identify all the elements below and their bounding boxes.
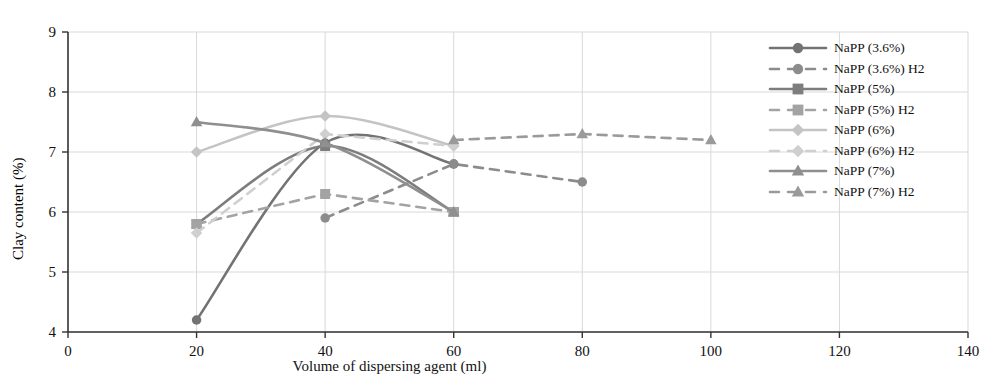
legend-swatch-napp-7 bbox=[768, 162, 828, 180]
x-axis-title-wrap: Volume of dispersing agent (ml) bbox=[0, 358, 999, 375]
y-tick-label: 6 bbox=[49, 204, 57, 220]
chart-figure: 456789020406080100120140 Clay content (%… bbox=[0, 0, 999, 390]
legend-label: NaPP (7%) bbox=[828, 163, 895, 179]
legend-swatch-napp-6-h2 bbox=[768, 142, 828, 160]
legend-swatch-napp-5-h2 bbox=[768, 101, 828, 119]
chart-legend: NaPP (3.6%) NaPP (3.6%) H2 NaPP (5%) NaP… bbox=[768, 38, 996, 202]
legend-item[interactable]: NaPP (3.6%) H2 bbox=[768, 59, 996, 80]
legend-label: NaPP (3.6%) bbox=[828, 40, 905, 56]
legend-item[interactable]: NaPP (3.6%) bbox=[768, 38, 996, 59]
data-point-circle bbox=[320, 213, 330, 223]
legend-item[interactable]: NaPP (6%) H2 bbox=[768, 141, 996, 162]
data-point-square bbox=[320, 189, 330, 199]
x-axis-title: Volume of dispersing agent (ml) bbox=[293, 358, 487, 375]
y-tick-label: 8 bbox=[49, 84, 57, 100]
x-tick-label: 100 bbox=[700, 343, 723, 359]
y-axis-title: Clay content (%) bbox=[10, 158, 27, 260]
legend-swatch-napp-7-h2 bbox=[768, 183, 828, 201]
legend-label: NaPP (3.6%) H2 bbox=[828, 61, 925, 77]
data-point-square bbox=[793, 84, 804, 95]
data-point-triangle bbox=[705, 134, 717, 144]
y-tick-label: 5 bbox=[49, 264, 57, 280]
x-tick-label: 20 bbox=[189, 343, 204, 359]
x-tick-label: 40 bbox=[318, 343, 333, 359]
legend-swatch-napp-3-6-h2 bbox=[768, 60, 828, 78]
legend-label: NaPP (6%) bbox=[828, 122, 895, 138]
legend-item[interactable]: NaPP (7%) H2 bbox=[768, 182, 996, 203]
data-point-circle bbox=[192, 315, 202, 325]
data-point-diamond bbox=[792, 124, 804, 136]
legend-swatch-napp-3-6 bbox=[768, 39, 828, 57]
y-tick-label: 7 bbox=[49, 144, 57, 160]
legend-item[interactable]: NaPP (5%) H2 bbox=[768, 100, 996, 121]
data-point-circle bbox=[578, 177, 588, 187]
legend-label: NaPP (5%) H2 bbox=[828, 102, 915, 118]
x-tick-label: 140 bbox=[957, 343, 980, 359]
data-point-circle bbox=[793, 43, 803, 53]
y-tick-label: 4 bbox=[49, 324, 57, 340]
x-tick-label: 60 bbox=[446, 343, 461, 359]
legend-swatch-napp-6 bbox=[768, 121, 828, 139]
data-point-diamond bbox=[191, 146, 203, 158]
data-point-square bbox=[793, 104, 804, 115]
data-point-circle bbox=[793, 64, 803, 74]
legend-item[interactable]: NaPP (6%) bbox=[768, 120, 996, 141]
legend-label: NaPP (7%) H2 bbox=[828, 184, 915, 200]
data-point-triangle bbox=[191, 116, 203, 126]
data-point-diamond bbox=[792, 145, 804, 157]
x-tick-label: 120 bbox=[828, 343, 851, 359]
x-tick-label: 0 bbox=[64, 343, 72, 359]
x-tick-label: 80 bbox=[575, 343, 590, 359]
data-point-diamond bbox=[319, 110, 331, 122]
legend-label: NaPP (5%) bbox=[828, 81, 895, 97]
legend-item[interactable]: NaPP (7%) bbox=[768, 161, 996, 182]
legend-swatch-napp-5 bbox=[768, 80, 828, 98]
data-point-circle bbox=[449, 159, 459, 169]
legend-item[interactable]: NaPP (5%) bbox=[768, 79, 996, 100]
legend-label: NaPP (6%) H2 bbox=[828, 143, 915, 159]
y-tick-label: 9 bbox=[49, 24, 57, 40]
